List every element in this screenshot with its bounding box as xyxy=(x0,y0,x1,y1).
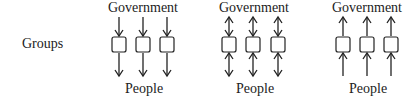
diagram-2-group-box-1 xyxy=(222,37,236,52)
diagram-3-group-box-3 xyxy=(384,37,398,52)
diagram-1-group-box-3 xyxy=(160,37,174,52)
diagram-2-group-box-2 xyxy=(246,37,260,52)
diagram-2-group-box-3 xyxy=(271,37,285,52)
diagram-1-group-box-2 xyxy=(136,37,150,52)
diagram-3-group-box-1 xyxy=(336,37,350,52)
diagram-3-group-box-2 xyxy=(360,37,374,52)
diagram-1-group-box-1 xyxy=(112,37,126,52)
diagram-graphics xyxy=(0,0,419,100)
